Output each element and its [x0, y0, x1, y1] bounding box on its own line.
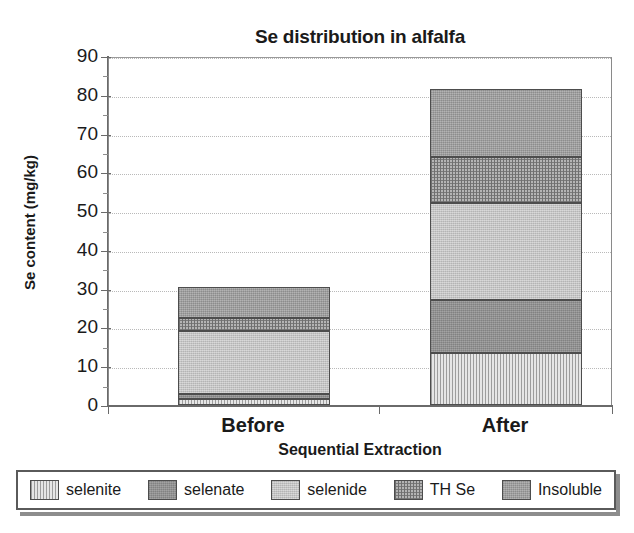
chart-figure: Se distribution in alfalfa Before and af… [0, 0, 634, 533]
y-axis-tick-label: 80 [54, 85, 98, 104]
x-axis-label-before: Before [153, 414, 353, 437]
bar-segment-selenate[interactable] [178, 394, 330, 399]
y-axis-tick [101, 135, 111, 136]
bar-segment-th-se[interactable] [178, 318, 330, 332]
chart-title: Se distribution in alfalfa [108, 26, 612, 48]
bar-segment-insoluble[interactable] [178, 287, 330, 318]
y-axis-minor-tick [103, 76, 109, 77]
y-axis-tick [101, 212, 111, 213]
legend-label: selenate [184, 481, 245, 499]
y-axis-tick [101, 328, 111, 329]
legend-swatch-selenite-icon [30, 480, 59, 500]
y-axis-tick-label: 20 [54, 317, 98, 336]
legend-item-selenate[interactable]: selenate [148, 480, 245, 500]
bar-segment-selenide[interactable] [178, 331, 330, 394]
legend-label: selenite [66, 481, 121, 499]
x-axis-line [107, 405, 613, 407]
plot-area [108, 57, 612, 406]
y-axis-minor-tick [103, 115, 109, 116]
y-axis-tick-label: 40 [54, 240, 98, 259]
legend-label: selenide [307, 481, 367, 499]
bar-segment-th-se[interactable] [430, 157, 582, 204]
y-axis-tick-label: 70 [54, 124, 98, 143]
chart-legend: seleniteselenateselenideTH SeInsoluble [16, 470, 616, 510]
y-axis-minor-tick [103, 348, 109, 349]
y-axis-minor-tick [103, 232, 109, 233]
legend-item-th-se[interactable]: TH Se [394, 480, 475, 500]
legend-shadow [20, 512, 620, 516]
y-axis-tick [101, 96, 111, 97]
y-axis-tick-label: 90 [54, 46, 98, 65]
y-axis-tick-label: 30 [54, 279, 98, 298]
y-axis-minor-tick [103, 193, 109, 194]
bar-segment-selenate[interactable] [430, 300, 582, 352]
y-axis-tick [101, 367, 111, 368]
y-axis-tick-labels: 0102030405060708090 [42, 0, 98, 533]
y-axis-minor-tick [103, 309, 109, 310]
legend-swatch-selenide-icon [271, 480, 300, 500]
y-axis-tick-label: 60 [54, 162, 98, 181]
x-axis-label-after: After [405, 414, 605, 437]
y-axis-tick [101, 173, 111, 174]
y-axis-minor-tick [103, 154, 109, 155]
y-axis-tick [101, 251, 111, 252]
bar-segment-insoluble[interactable] [430, 89, 582, 157]
legend-swatch-th-se-icon [394, 480, 423, 500]
legend-item-selenide[interactable]: selenide [271, 480, 367, 500]
y-axis-tick-label: 50 [54, 201, 98, 220]
legend-swatch-insoluble-icon [502, 480, 531, 500]
bar-segment-selenite[interactable] [430, 353, 582, 405]
y-axis-tick-label: 10 [54, 356, 98, 375]
y-axis-tick [101, 290, 111, 291]
x-axis-tick [379, 405, 380, 414]
legend-item-insoluble[interactable]: Insoluble [502, 480, 602, 500]
x-axis-tick [612, 405, 613, 414]
x-axis-title: Sequential Extraction [108, 441, 612, 459]
bar-after[interactable] [430, 56, 582, 405]
x-axis-tick [108, 405, 109, 414]
y-axis-tick [101, 57, 111, 58]
legend-label: TH Se [430, 481, 475, 499]
y-axis-minor-tick [103, 387, 109, 388]
y-axis-tick [101, 406, 111, 407]
legend-label: Insoluble [538, 481, 602, 499]
legend-shadow-right [616, 474, 620, 516]
bar-before[interactable] [178, 56, 330, 405]
y-axis-tick-label: 0 [54, 395, 98, 414]
y-axis-title: Se content (mg/kg) [21, 113, 38, 333]
y-axis-minor-tick [103, 270, 109, 271]
legend-swatch-selenate-icon [148, 480, 177, 500]
bar-segment-selenide[interactable] [430, 203, 582, 300]
legend-item-selenite[interactable]: selenite [30, 480, 121, 500]
